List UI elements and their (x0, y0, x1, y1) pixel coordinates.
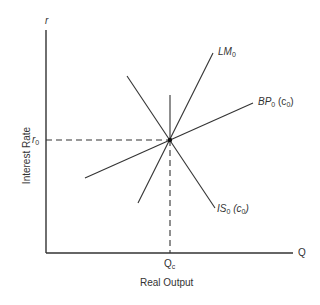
qc-label-base: Q (164, 258, 172, 269)
equilibrium-point (168, 138, 172, 142)
bp-curve-label: BP0 (c0) (258, 97, 294, 108)
lm-curve-label: LM0 (218, 47, 236, 58)
x-axis-symbol: Q (298, 248, 306, 258)
bp-label-base: BP (258, 96, 271, 107)
is-label-sub: 0 (226, 208, 230, 215)
lm-curve (138, 53, 213, 203)
qc-label: Qc (164, 259, 175, 270)
bp-label-suffix-end: ) (290, 96, 293, 107)
x-axis-label: Real Output (140, 278, 193, 288)
r0-label-sub: 0 (35, 139, 39, 146)
lm-label-sub: 0 (232, 51, 236, 58)
is-curve-label: IS0 (c0) (217, 204, 249, 215)
y-axis-symbol: r (45, 16, 48, 26)
r0-label: r0 (32, 135, 39, 146)
diagram-canvas (0, 0, 320, 305)
y-axis-label: Interest Rate (21, 106, 32, 206)
is-label-suffix-end: ) (245, 203, 248, 214)
is-lm-bp-diagram: r Interest Rate r0 LM0 BP0 (c0) IS0 (c0)… (0, 0, 320, 305)
is-curve (127, 76, 215, 208)
bp-label-sub: 0 (271, 101, 275, 108)
lm-label-base: LM (218, 46, 232, 57)
qc-label-sub: c (172, 263, 176, 270)
